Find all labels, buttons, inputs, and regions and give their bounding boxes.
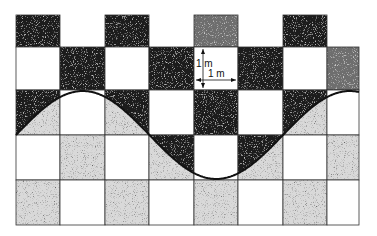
grid-cell: [194, 90, 238, 135]
grid-cell: [149, 47, 194, 90]
grid-cell: [327, 90, 359, 135]
grid-cell: [327, 135, 359, 180]
grid-cell: [16, 180, 60, 225]
grid-cell: [60, 47, 105, 90]
grid-cell: [238, 47, 283, 90]
grid-cell: [283, 180, 327, 225]
grid-cell: [194, 180, 238, 225]
grid-cell: [238, 180, 283, 225]
grid-cell: [283, 15, 327, 47]
grid-cell: [194, 135, 238, 180]
grid-cell: [105, 15, 149, 47]
checkerboard-wave-diagram: 1 m 1 m: [0, 0, 377, 236]
grid-cell: [16, 15, 60, 47]
grid-cell: [105, 47, 149, 90]
grid-cell: [194, 15, 238, 47]
horizontal-dimension-label: 1 m: [208, 68, 225, 79]
grid-cell: [149, 180, 194, 225]
grid-cell: [60, 180, 105, 225]
grid-cell: [149, 90, 194, 135]
grid-cell: [283, 47, 327, 90]
grid-cell: [16, 47, 60, 90]
grid-cell: [238, 90, 283, 135]
grid-cell: [60, 90, 105, 135]
grid-cell: [105, 135, 149, 180]
grid-cells: [16, 15, 359, 225]
grid-cell: [16, 135, 60, 180]
grid-cell: [105, 180, 149, 225]
grid-cell: [60, 135, 105, 180]
grid-cell: [327, 180, 359, 225]
grid-cell: [327, 47, 359, 90]
grid-cell: [283, 135, 327, 180]
